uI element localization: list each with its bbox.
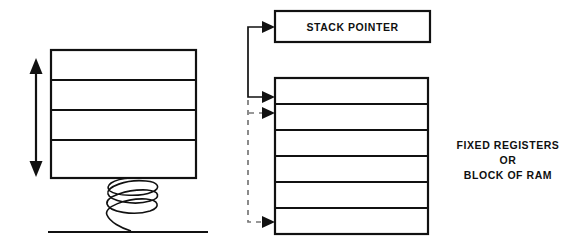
vertical-travel-arrow — [30, 58, 43, 177]
connector-trunk-solid — [248, 27, 268, 97]
caption-line-2: OR — [500, 154, 517, 166]
stack-box-outline — [51, 50, 196, 178]
diagram-canvas: STACK POINTER FIXED REGISTERS — [0, 0, 576, 251]
coil-spring — [107, 178, 158, 231]
spring-coil-path — [107, 178, 158, 231]
register-block-group — [275, 78, 428, 234]
connector-trunk-dashed — [248, 100, 268, 222]
arrow-to-register-row-2 — [262, 107, 275, 119]
stack-pointer-connector — [248, 21, 275, 228]
stack-diagram-root: STACK POINTER FIXED REGISTERS — [0, 0, 576, 251]
caption-line-1: FIXED REGISTERS — [457, 139, 560, 151]
arrow-to-register-row-1 — [262, 91, 275, 103]
register-block-caption: FIXED REGISTERS OR BLOCK OF RAM — [457, 139, 560, 181]
stack-pointer-label: STACK POINTER — [306, 21, 398, 33]
arrow-to-register-row-6 — [262, 216, 275, 228]
arrow-to-stack-pointer — [262, 21, 275, 33]
stack-pointer-box-group: STACK POINTER — [275, 11, 430, 42]
travel-arrow-head-up — [30, 58, 43, 74]
caption-line-3: BLOCK OF RAM — [464, 169, 552, 181]
travel-arrow-head-down — [30, 161, 43, 177]
stack-box-group — [51, 50, 196, 178]
